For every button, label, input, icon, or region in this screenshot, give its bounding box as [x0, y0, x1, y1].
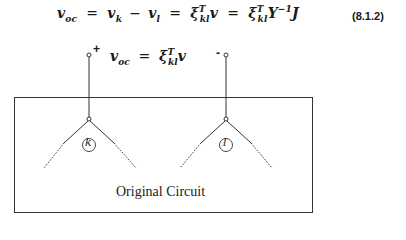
node-l-right-branch-dotted — [251, 143, 272, 168]
box-caption: Original Circuit — [116, 184, 205, 200]
positive-terminal-icon — [87, 53, 91, 57]
node-l-left-branch — [201, 121, 225, 143]
node-l-label: l — [223, 136, 227, 149]
node-k-icon — [87, 117, 91, 121]
node-l-icon — [224, 117, 228, 121]
positive-sign: + — [93, 42, 100, 56]
node-k-right-branch — [90, 121, 114, 143]
node-l-left-branch-dotted — [180, 143, 201, 168]
negative-sign: - — [216, 46, 220, 60]
node-k-left-branch-dotted — [44, 143, 64, 168]
node-k-label: k — [85, 136, 92, 149]
node-k-right-branch-dotted — [114, 143, 136, 168]
negative-terminal-icon — [224, 53, 228, 57]
node-l-right-branch — [227, 121, 251, 143]
